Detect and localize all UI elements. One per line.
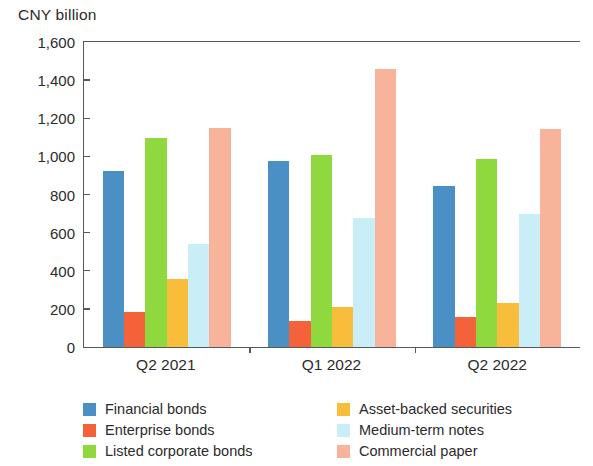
legend-item[interactable]: Enterprise bonds (83, 420, 331, 441)
y-axis-tick-label: 200 (50, 300, 75, 317)
legend-label: Asset-backed securities (359, 402, 512, 417)
legend-swatch-icon (337, 403, 350, 416)
legend-swatch-icon (83, 403, 96, 416)
legend-label: Medium-term notes (359, 423, 484, 438)
x-axis-tick-mark (249, 347, 250, 353)
y-axis-tick-label: 1,000 (37, 148, 75, 165)
bar-group (249, 42, 414, 347)
legend-swatch-icon (337, 445, 350, 458)
bar (167, 279, 188, 347)
bar-group-bars (103, 42, 231, 347)
legend-item[interactable]: Asset-backed securities (337, 399, 585, 420)
bar (519, 214, 540, 347)
x-axis-labels: Q2 2021Q1 2022Q2 2022 (83, 356, 580, 374)
legend-swatch-icon (83, 445, 96, 458)
bar (289, 321, 310, 347)
y-axis-tick-label: 600 (50, 224, 75, 241)
bar (476, 159, 497, 347)
bar-group-bars (268, 42, 396, 347)
bar-group-bars (433, 42, 561, 347)
legend-label: Enterprise bonds (105, 423, 215, 438)
y-axis-tick-label: 400 (50, 262, 75, 279)
plot-area: 1,6001,4001,2001,0008006004002000 (83, 41, 580, 348)
x-axis-tick-mark (415, 347, 416, 353)
legend-item[interactable]: Medium-term notes (337, 420, 585, 441)
legend-item[interactable]: Financial bonds (83, 399, 331, 420)
y-axis-tick-label: 0 (67, 339, 75, 356)
bar (188, 244, 209, 347)
x-axis-label: Q1 2022 (249, 356, 415, 374)
x-axis-label: Q2 2022 (414, 356, 580, 374)
legend-item[interactable]: Commercial paper (337, 441, 585, 462)
legend-label: Commercial paper (359, 444, 477, 459)
legend-label: Listed corporate bonds (105, 444, 253, 459)
bar (103, 171, 124, 347)
bar (209, 128, 230, 347)
y-axis-title: CNY billion (18, 6, 97, 24)
bar (311, 155, 332, 347)
bar (540, 129, 561, 347)
legend-swatch-icon (337, 424, 350, 437)
y-axis-tick-label: 800 (50, 186, 75, 203)
bar (145, 138, 166, 347)
x-axis-label: Q2 2021 (83, 356, 249, 374)
bar (375, 69, 396, 347)
bar (455, 317, 476, 347)
bar (353, 218, 374, 347)
bar (124, 312, 145, 347)
bar (332, 307, 353, 347)
bar-group (415, 42, 580, 347)
bar-group (84, 42, 249, 347)
legend-swatch-icon (83, 424, 96, 437)
legend-item[interactable]: Listed corporate bonds (83, 441, 331, 462)
y-axis-tick-label: 1,400 (37, 72, 75, 89)
bar-groups (84, 42, 580, 347)
bar (268, 161, 289, 347)
bar-chart: CNY billion 1,6001,4001,2001,00080060040… (0, 0, 593, 466)
chart-legend: Financial bondsAsset-backed securitiesEn… (83, 399, 585, 462)
y-axis-tick-label: 1,600 (37, 34, 75, 51)
y-axis-tick-label: 1,200 (37, 110, 75, 127)
legend-label: Financial bonds (105, 402, 207, 417)
bar (433, 186, 454, 347)
bar (497, 303, 518, 347)
